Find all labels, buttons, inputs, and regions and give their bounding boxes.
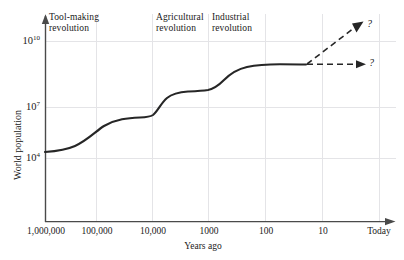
x-tick-100: 100 [259,226,273,237]
projection-rising [307,22,364,65]
population-curve [45,64,306,152]
x-tick-10: 10 [318,226,328,237]
y-tick-1e4: 104 [0,152,40,164]
x-axis-arrowhead [385,218,396,225]
x-tick-10000: 10,000 [140,226,166,237]
y-tick-1e10: 1010 [0,35,40,47]
question-mark-rising: ? [367,18,372,29]
x-tick-1000000: 1,000,000 [27,226,65,237]
x-tick-today: Today [367,226,391,237]
x-axis [45,218,396,225]
annotation-tool-making-line2: revolution [49,23,89,33]
question-mark-flat: ? [369,57,374,68]
annotation-agricultural-line1: Agricultural [156,12,204,22]
grid-horizontal [45,42,396,159]
y-axis [42,14,49,222]
annotation-industrial-revolution: Industrialrevolution [212,12,252,33]
projection-flat [307,60,366,68]
x-tick-1000: 1000 [200,226,219,237]
annotation-agricultural-revolution: Agriculturalrevolution [156,12,204,33]
y-tick-1e7: 107 [0,101,40,113]
population-growth-chart: World population 1010 107 104 1,000,000 … [0,0,404,260]
x-axis-title: Years ago [184,241,221,252]
y-axis-title: World population [12,110,23,180]
annotation-industrial-line2: revolution [212,23,252,33]
annotation-tool-making-line1: Tool-making [49,12,99,22]
annotation-tool-making-revolution: Tool-makingrevolution [49,12,99,33]
annotation-industrial-line1: Industrial [212,12,249,22]
chart-canvas [0,0,404,260]
x-tick-100000: 100,000 [82,226,113,237]
annotation-agricultural-line2: revolution [156,23,196,33]
